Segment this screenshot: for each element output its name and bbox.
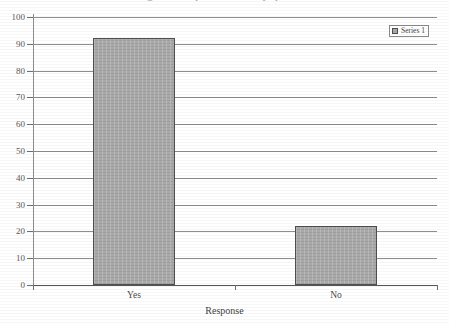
bar-chart: 0102030405060708090100 YesNo Response Se… — [0, 0, 449, 323]
y-axis-tick-label: 100 — [1, 13, 25, 22]
chart-legend[interactable]: Series 1 — [389, 25, 429, 37]
x-axis-label-yes: Yes — [94, 290, 174, 301]
y-axis-tick-label: 80 — [1, 67, 25, 76]
y-axis-tick-label: 90 — [1, 40, 25, 49]
bar-yes[interactable] — [93, 38, 175, 285]
y-axis-tick-label: 40 — [1, 174, 25, 183]
y-axis-tick-label: 50 — [1, 147, 25, 156]
plot-area — [33, 17, 437, 285]
y-axis-tick-label: 10 — [1, 254, 25, 263]
legend-swatch-series-1 — [392, 28, 398, 34]
bar-no[interactable] — [295, 226, 377, 285]
x-axis-tick — [235, 285, 236, 290]
x-axis-tick — [33, 285, 34, 290]
y-axis-tick-label: 20 — [1, 227, 25, 236]
y-axis-tick-label: 30 — [1, 201, 25, 210]
y-axis-tick-label: 0 — [1, 281, 25, 290]
x-axis-title: Response — [0, 305, 449, 317]
x-axis-tick — [437, 285, 438, 290]
x-axis-label-no: No — [296, 290, 376, 301]
y-axis-tick-label: 60 — [1, 120, 25, 129]
legend-label-series-1: Series 1 — [401, 27, 425, 35]
y-axis-tick-label: 70 — [1, 93, 25, 102]
